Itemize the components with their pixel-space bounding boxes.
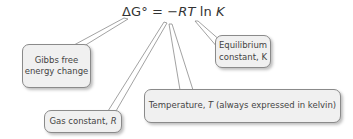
gibbs-pointer [74, 18, 128, 46]
minus-sign: − [167, 4, 178, 19]
delta-g-standard: ΔG° [122, 4, 148, 19]
gibbs-line2: energy change [25, 66, 89, 77]
equals-sign: = [148, 4, 167, 19]
temperature-callout: Temperature, T (always expressed in kelv… [144, 89, 341, 123]
equilibrium-callout: Equilibrium constant, K [215, 35, 271, 68]
ln-operator: ln [195, 4, 216, 19]
equilibrium-var: K [261, 52, 267, 62]
gibbs-equation: ΔG° = −RT ln K [122, 4, 225, 19]
temperature-note: (always expressed in kelvin) [213, 100, 336, 110]
rt-term: RT [178, 4, 195, 19]
gas-constant-callout: Gas constant, R [44, 110, 122, 133]
gibbs-callout: Gibbs free energy change [22, 44, 91, 88]
equilibrium-line2: constant, [219, 52, 261, 62]
equilibrium-line1: Equilibrium [219, 40, 267, 51]
k-term: K [216, 4, 225, 19]
gas-var: R [111, 116, 117, 126]
gibbs-line1: Gibbs free [25, 55, 89, 66]
temperature-text: Temperature, [149, 100, 208, 110]
temperature-pointer [169, 24, 193, 90]
gas-text: Gas constant, [49, 116, 110, 126]
